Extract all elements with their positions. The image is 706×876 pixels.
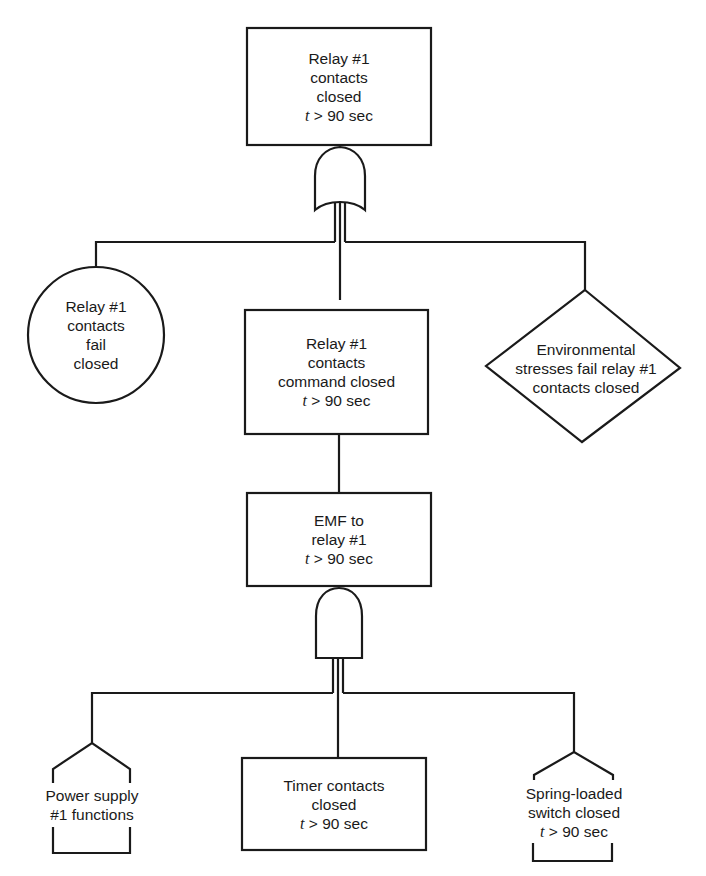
or-gate-icon — [315, 147, 365, 210]
top-event-line-1: Relay #1 — [308, 49, 369, 68]
emf-event-time: t > 90 sec — [305, 549, 373, 568]
timer-contacts-line-2: closed — [312, 795, 357, 814]
time-condition: > 90 sec — [305, 815, 368, 832]
top-event-line-3: closed — [317, 87, 362, 106]
power-supply-line-1: Power supply — [45, 786, 138, 805]
basic-event-line-2: contacts — [67, 316, 125, 335]
basic-event-line-3: fail — [86, 335, 106, 354]
spring-switch-line-2: switch closed — [528, 803, 620, 822]
undeveloped-event-line-1: Environmental — [536, 340, 635, 359]
command-event-line-3: command closed — [278, 372, 395, 391]
basic-event-label: Relay #1 contacts fail closed — [28, 267, 164, 403]
spring-switch-time: t > 90 sec — [540, 822, 608, 841]
command-event-line-2: contacts — [308, 353, 366, 372]
time-condition: > 90 sec — [307, 392, 370, 409]
time-condition: > 90 sec — [310, 550, 373, 567]
basic-event-line-1: Relay #1 — [65, 297, 126, 316]
command-event-line-1: Relay #1 — [306, 334, 367, 353]
time-condition: > 90 sec — [310, 107, 373, 124]
undeveloped-event-line-3: contacts closed — [533, 378, 640, 397]
undeveloped-event-label: Environmental stresses fail relay #1 con… — [496, 330, 676, 406]
spring-switch-label: Spring-loaded switch closed t > 90 sec — [512, 781, 636, 843]
emf-event-line-2: relay #1 — [311, 530, 366, 549]
power-supply-line-2: #1 functions — [50, 805, 134, 824]
top-event-line-2: contacts — [310, 68, 368, 87]
fault-tree-diagram: Relay #1 contacts closed t > 90 sec Rela… — [0, 0, 706, 876]
basic-event-line-4: closed — [74, 354, 119, 373]
command-event-label: Relay #1 contacts command closed t > 90 … — [245, 310, 428, 434]
timer-contacts-label: Timer contacts closed t > 90 sec — [242, 758, 426, 850]
time-condition: > 90 sec — [545, 823, 608, 840]
emf-event-line-1: EMF to — [314, 511, 364, 530]
top-event-time: t > 90 sec — [305, 106, 373, 125]
spring-switch-line-1: Spring-loaded — [526, 784, 623, 803]
undeveloped-event-line-2: stresses fail relay #1 — [515, 359, 656, 378]
timer-contacts-time: t > 90 sec — [300, 814, 368, 833]
timer-contacts-line-1: Timer contacts — [283, 776, 384, 795]
top-event-label: Relay #1 contacts closed t > 90 sec — [247, 28, 431, 145]
power-supply-label: Power supply #1 functions — [30, 783, 154, 827]
command-event-time: t > 90 sec — [303, 391, 371, 410]
emf-event-label: EMF to relay #1 t > 90 sec — [247, 493, 431, 586]
and-gate-icon — [316, 588, 362, 658]
